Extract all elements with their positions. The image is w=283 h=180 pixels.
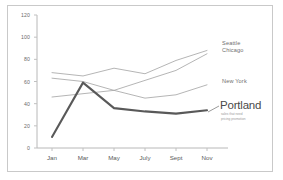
series-line-portland xyxy=(52,83,207,137)
portland-leader-line xyxy=(208,106,219,112)
portland-annotation: sales that need pricing promotion xyxy=(221,112,245,121)
y-axis-tick-label: 0 xyxy=(8,145,30,151)
chart-axes xyxy=(34,15,228,151)
line-chart-plot xyxy=(0,0,283,180)
series-label-portland: Portland xyxy=(220,99,261,111)
y-axis-tick-label: 60 xyxy=(8,79,30,85)
x-axis-tick-label: July xyxy=(130,154,160,161)
x-axis-tick-label: Mar xyxy=(68,154,98,161)
x-axis-tick-label: Jan xyxy=(37,154,67,161)
y-axis-tick-label: 20 xyxy=(8,123,30,129)
series-line-chicago xyxy=(52,54,207,91)
x-axis-tick-label: Nov xyxy=(192,154,222,161)
y-axis-tick-label: 100 xyxy=(8,34,30,40)
y-axis-tick-label: 40 xyxy=(8,101,30,107)
portland-annotation-line-1: sales that need xyxy=(221,112,245,117)
x-axis-tick-label: Sept xyxy=(161,154,191,161)
series-line-seattle xyxy=(52,50,207,75)
portland-annotation-line-2: pricing promotion xyxy=(221,117,245,122)
y-axis-tick-label: 120 xyxy=(8,12,30,18)
series-label-new-york: New York xyxy=(222,78,247,84)
x-axis-tick-label: May xyxy=(99,154,129,161)
series-label-chicago: Chicago xyxy=(222,47,244,53)
chart-series-group xyxy=(52,50,219,136)
y-axis-tick-label: 80 xyxy=(8,56,30,62)
series-label-seattle: Seattle xyxy=(222,40,240,46)
